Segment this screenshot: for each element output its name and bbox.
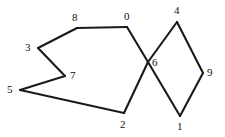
graph-edge-9-1 (180, 73, 203, 116)
node-label-5: 5 (7, 84, 13, 95)
node-label-0: 0 (124, 11, 130, 22)
node-label-3: 3 (25, 42, 31, 53)
node-label-6: 6 (152, 57, 158, 68)
graph-edge-5-2 (20, 90, 124, 113)
node-label-9: 9 (207, 67, 213, 78)
node-label-4: 4 (174, 5, 180, 16)
edge-group (20, 22, 203, 116)
graph-edge-0-8 (77, 27, 127, 28)
node-label-2: 2 (120, 119, 126, 130)
graph-edge-3-7 (38, 48, 65, 76)
graph-edge-1-6 (148, 62, 180, 116)
graph-canvas (0, 0, 225, 137)
node-label-1: 1 (177, 121, 183, 132)
graph-figure: 0123456789 (0, 0, 225, 137)
graph-edge-4-9 (177, 22, 203, 73)
node-label-7: 7 (70, 70, 76, 81)
graph-edge-7-5 (20, 76, 65, 90)
graph-edge-6-0 (127, 27, 148, 62)
graph-edge-2-6 (124, 62, 148, 113)
node-label-8: 8 (72, 12, 78, 23)
graph-edge-8-3 (38, 28, 77, 48)
